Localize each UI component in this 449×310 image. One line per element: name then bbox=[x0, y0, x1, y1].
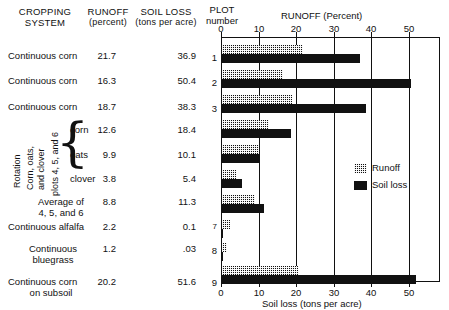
plot-number-3: 3 bbox=[205, 103, 217, 114]
row-2-system: Continuous corn bbox=[8, 75, 88, 86]
gridline-20 bbox=[296, 37, 297, 282]
figure-root: CROPPING SYSTEM RUNOFF (percent) SOIL LO… bbox=[0, 0, 449, 310]
bar-runoff-avg bbox=[222, 195, 255, 204]
row-1-soil: 36.9 bbox=[140, 50, 196, 61]
legend-item-soil-loss: Soil loss bbox=[354, 178, 407, 192]
row-9-soil: 51.6 bbox=[140, 276, 196, 287]
row-3-system: Continuous corn bbox=[8, 101, 88, 112]
rotation-label-line1: Rotation bbox=[12, 154, 22, 188]
row-6-runoff: 3.8 bbox=[86, 173, 116, 184]
row-1-system: Continuous corn bbox=[8, 50, 88, 61]
rotation-label-line2: Corn, oats, bbox=[25, 146, 35, 190]
header-soil-loss: SOIL LOSS (tons per acre) bbox=[130, 6, 202, 28]
bar-runoff-1 bbox=[222, 45, 303, 54]
header-cropping-system: CROPPING SYSTEM bbox=[8, 6, 82, 28]
header-runoff-line1: RUNOFF bbox=[84, 6, 132, 17]
bar-runoff-4 bbox=[222, 120, 269, 129]
row-7-runoff: 2.2 bbox=[86, 221, 116, 232]
gridline-30 bbox=[334, 37, 335, 282]
bottom-tick-30: 30 bbox=[322, 287, 346, 298]
bottom-tick-0: 0 bbox=[209, 287, 233, 298]
bottom-tick-10: 10 bbox=[247, 287, 271, 298]
row-7-soil: 0.1 bbox=[140, 221, 196, 232]
row-3-runoff: 18.7 bbox=[86, 101, 116, 112]
row-8-soil: .03 bbox=[140, 243, 196, 254]
row-2-soil: 50.4 bbox=[140, 75, 196, 86]
row-8-system-line2: bluegrass bbox=[22, 254, 84, 265]
bar-soil-3 bbox=[222, 104, 366, 113]
gridline-40 bbox=[371, 37, 372, 282]
header-plot-line1: PLOT bbox=[198, 4, 246, 15]
bar-runoff-2 bbox=[222, 70, 283, 79]
plot-number-8: 8 bbox=[205, 245, 217, 256]
row-avg-system-line2: 4, 5, and 6 bbox=[26, 207, 96, 218]
header-soil-loss-line2: (tons per acre) bbox=[130, 17, 202, 28]
row-avg-soil: 11.3 bbox=[140, 196, 196, 207]
plot-number-7: 7 bbox=[205, 222, 217, 231]
bottom-tick-20: 20 bbox=[284, 287, 308, 298]
row-avg-runoff: 8.8 bbox=[86, 196, 116, 207]
bottom-tick-40: 40 bbox=[359, 287, 383, 298]
bottom-tick-50: 50 bbox=[397, 287, 421, 298]
legend-swatch-runoff-icon bbox=[354, 164, 367, 173]
bar-runoff-8 bbox=[222, 243, 227, 252]
legend-label-soil-loss: Soil loss bbox=[372, 178, 407, 192]
row-8-runoff: 1.2 bbox=[86, 243, 116, 254]
row-8-system: Continuous bbox=[22, 243, 84, 254]
bar-runoff-9 bbox=[222, 266, 298, 275]
bar-soil-2 bbox=[222, 79, 411, 88]
gridline-50 bbox=[409, 37, 410, 282]
bar-runoff-5 bbox=[222, 145, 259, 154]
chart-legend: Runoff Soil loss bbox=[354, 161, 407, 195]
bar-soil-4 bbox=[222, 129, 291, 138]
row-4-runoff: 12.6 bbox=[86, 124, 116, 135]
row-5-soil: 10.1 bbox=[140, 149, 196, 160]
bar-soil-6 bbox=[222, 179, 242, 188]
bar-chart: Runoff Soil loss bbox=[221, 37, 440, 282]
row-9-system-line2: on subsoil bbox=[20, 287, 82, 298]
header-cropping-system-line1: CROPPING bbox=[8, 6, 82, 17]
row-9-system: Continuous corn bbox=[8, 276, 92, 287]
bar-soil-5 bbox=[222, 154, 260, 163]
bar-soil-7 bbox=[222, 229, 223, 238]
rotation-label-line3: and clover bbox=[36, 148, 46, 190]
row-3-soil: 38.3 bbox=[140, 101, 196, 112]
bar-soil-8 bbox=[222, 252, 223, 261]
row-4-soil: 18.4 bbox=[140, 124, 196, 135]
header-runoff-line2: (percent) bbox=[84, 17, 132, 28]
plot-number-1: 1 bbox=[205, 52, 217, 63]
bar-runoff-3 bbox=[222, 95, 292, 104]
bottom-axis-title: Soil loss (tons per acre) bbox=[262, 298, 362, 309]
bar-soil-1 bbox=[222, 54, 360, 63]
header-runoff: RUNOFF (percent) bbox=[84, 6, 132, 28]
legend-label-runoff: Runoff bbox=[372, 161, 400, 175]
bar-soil-avg bbox=[222, 204, 264, 213]
top-axis-title: RUNOFF (Percent) bbox=[281, 10, 362, 21]
row-6-soil: 5.4 bbox=[140, 173, 196, 184]
row-5-runoff: 9.9 bbox=[86, 149, 116, 160]
bar-soil-9 bbox=[222, 275, 416, 284]
header-soil-loss-line1: SOIL LOSS bbox=[130, 6, 202, 17]
plot-number-2: 2 bbox=[205, 77, 217, 88]
row-9-runoff: 20.2 bbox=[86, 276, 116, 287]
bar-runoff-6 bbox=[222, 170, 236, 179]
row-1-runoff: 21.7 bbox=[86, 50, 116, 61]
bar-runoff-7 bbox=[222, 220, 230, 229]
row-2-runoff: 16.3 bbox=[86, 75, 116, 86]
row-7-system: Continuous alfalfa bbox=[8, 221, 90, 232]
legend-item-runoff: Runoff bbox=[354, 161, 407, 175]
header-cropping-system-line2: SYSTEM bbox=[8, 17, 82, 28]
legend-swatch-soil-loss-icon bbox=[354, 181, 367, 190]
